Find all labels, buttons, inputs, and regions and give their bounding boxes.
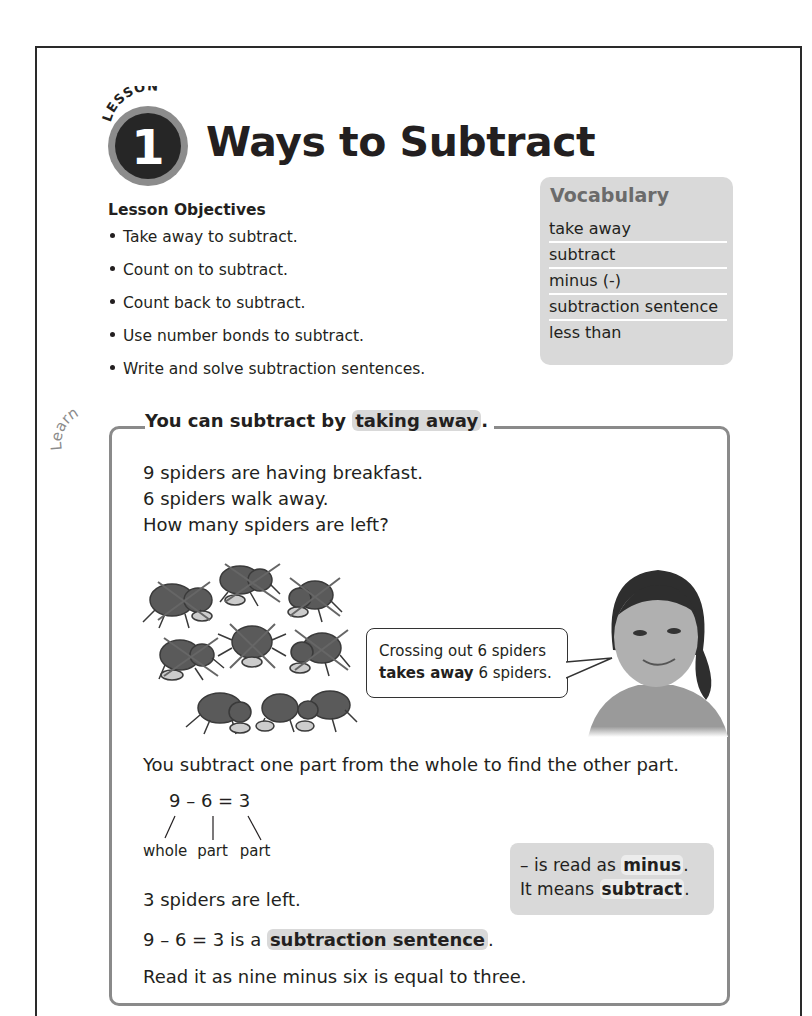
lesson-badge-icon: LESSON 1 (96, 86, 206, 196)
spiders-illustration (140, 550, 365, 740)
objective-item: Write and solve subtraction sentences. (110, 360, 425, 393)
vocabulary-box: Vocabulary take away subtract minus (-) … (540, 177, 733, 365)
spider-icon (290, 633, 350, 676)
bullet-icon (110, 299, 115, 304)
vocabulary-item: take away (549, 217, 727, 243)
objective-item: Use number bonds to subtract. (110, 327, 425, 360)
story-text: 9 spiders are having breakfast. 6 spider… (143, 460, 423, 538)
minus-note-box: – is read as minus. It means subtract. (510, 843, 714, 915)
vocabulary-list: take away subtract minus (-) subtraction… (549, 217, 727, 347)
taking-away-highlight: taking away (352, 410, 481, 431)
svg-text:Learn: Learn (48, 404, 82, 451)
spider-icon (186, 693, 251, 734)
objectives-list: Take away to subtract. Count on to subtr… (110, 228, 425, 393)
subtraction-sentence-text: 9 – 6 = 3 is a subtraction sentence. (143, 929, 494, 950)
spider-icon (256, 694, 298, 732)
bullet-icon (110, 365, 115, 370)
objectives-heading: Lesson Objectives (108, 201, 266, 219)
vocabulary-item: subtraction sentence (549, 295, 727, 321)
bullet-icon (110, 266, 115, 271)
vocabulary-title: Vocabulary (550, 184, 669, 206)
vocabulary-item: less than (549, 321, 727, 347)
bullet-icon (110, 233, 115, 238)
equation-connector-lines (143, 814, 263, 844)
girl-photo (578, 555, 728, 737)
bullet-icon (110, 332, 115, 337)
equation: 9 – 6 = 3 (169, 790, 250, 811)
equation-diagram: 9 – 6 = 3 whole part part (143, 790, 343, 870)
speech-bubble: Crossing out 6 spiders takes away 6 spid… (366, 628, 568, 698)
objective-item: Take away to subtract. (110, 228, 425, 261)
spider-icon (296, 691, 357, 732)
vocabulary-item: subtract (549, 243, 727, 269)
answer-text: 3 spiders are left. (143, 889, 301, 910)
page-title: Ways to Subtract (206, 118, 595, 166)
learn-label-icon: Learn (48, 404, 118, 454)
spider-icon (288, 581, 342, 622)
whole-part-explanation: You subtract one part from the whole to … (143, 754, 679, 775)
read-as-text: Read it as nine minus six is equal to th… (143, 966, 527, 987)
objective-item: Count on to subtract. (110, 261, 425, 294)
equation-labels: whole part part (143, 842, 270, 860)
objective-item: Count back to subtract. (110, 294, 425, 327)
learn-heading: You can subtract by taking away. (145, 410, 494, 431)
lesson-number: 1 (131, 119, 164, 175)
subtraction-sentence-highlight: subtraction sentence (267, 929, 488, 950)
vocabulary-item: minus (-) (549, 269, 727, 295)
